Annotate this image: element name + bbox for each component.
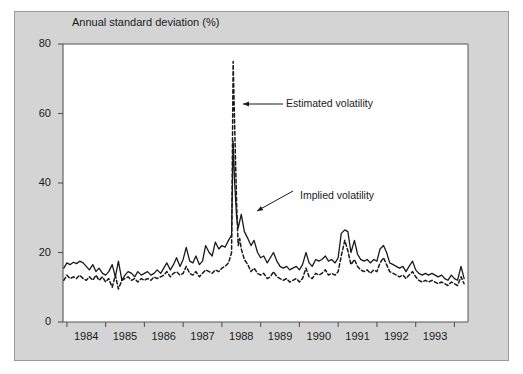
x-tick-label: 1984 [66,330,106,342]
x-tick-label: 1991 [338,330,378,342]
x-tick-label: 1993 [415,330,455,342]
x-tick-label: 1985 [105,330,145,342]
y-tick-label: 20 [25,246,51,258]
x-tick-label: 1989 [260,330,300,342]
y-tick-label: 40 [25,176,51,188]
chart-plot-area [0,0,523,374]
y-tick-label: 80 [25,37,51,49]
x-tick-label: 1987 [183,330,223,342]
x-tick-label: 1992 [376,330,416,342]
x-tick-label: 1990 [299,330,339,342]
plot-background [63,44,468,322]
x-tick-label: 1986 [144,330,184,342]
y-tick-label: 0 [25,315,51,327]
figure-container: Annual standard deviation (%) 0204060801… [0,0,523,374]
annotation-label: Implied volatility [300,189,374,201]
x-tick-label: 1988 [221,330,261,342]
y-tick-label: 60 [25,107,51,119]
annotation-label: Estimated volatility [286,97,373,109]
